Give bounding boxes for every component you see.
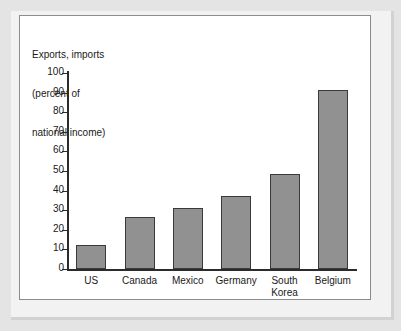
- y-axis-line: [67, 71, 69, 271]
- chart-panel: Exports, imports (percent of national in…: [19, 15, 371, 300]
- bar: [270, 174, 300, 269]
- y-tick-label: 70: [53, 125, 64, 136]
- x-axis-label: South Korea: [260, 275, 308, 299]
- y-tick-label: 80: [53, 105, 64, 116]
- x-axis-line: [67, 269, 357, 271]
- y-tick-label: 100: [47, 66, 64, 77]
- y-tick-label: 50: [53, 164, 64, 175]
- bar: [76, 245, 106, 269]
- chart-title-line-1: Exports, imports: [32, 48, 105, 61]
- x-axis-label: Belgium: [309, 275, 357, 287]
- y-tick-label: 90: [53, 86, 64, 97]
- y-tick-label: 40: [53, 184, 64, 195]
- y-tick-label: 0: [58, 262, 64, 273]
- x-axis-label: Mexico: [164, 275, 212, 287]
- y-tick-label: 10: [53, 242, 64, 253]
- bar: [221, 196, 251, 270]
- bar: [318, 90, 348, 269]
- x-axis-label: Germany: [212, 275, 260, 287]
- bar: [173, 208, 203, 269]
- x-axis-label: Canada: [115, 275, 163, 287]
- x-axis-label: US: [67, 275, 115, 287]
- y-tick-label: 30: [53, 203, 64, 214]
- bar: [125, 217, 155, 269]
- y-tick-label: 60: [53, 144, 64, 155]
- plot-area: 1009080706050403020100 USCanadaMexicoGer…: [67, 73, 357, 269]
- y-tick-label: 20: [53, 223, 64, 234]
